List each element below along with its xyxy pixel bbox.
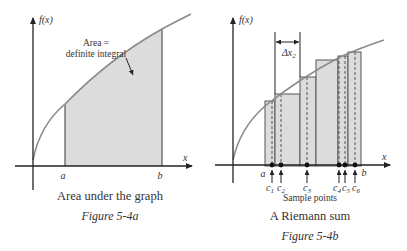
rectangle-4 [316,60,338,166]
tick-label-a: a [261,168,266,179]
tick-label-b: b [158,170,163,181]
annotation-line-1: Area = [83,38,109,48]
figure-label: Figure 5-4a [80,209,138,223]
delta-label: Δx2 [281,47,296,60]
tick-label-b: b [362,167,367,178]
rectangle-2 [275,94,300,166]
sample-points-caption: Sample points [283,193,337,203]
figure-label: Figure 5-4b [280,229,338,243]
annotation-line-2: definite integral [66,49,127,59]
sample-label-c1: c1 [266,182,274,195]
sample-label-c6: c6 [352,182,360,195]
x-axis-label: x [381,151,387,162]
riemann-rectangles [265,52,361,166]
x-axis-label: x [182,152,188,163]
tick-label-a: a [61,170,66,181]
sample-label-c5: c5 [342,182,350,195]
figure-5-4a: f(x) x Area = definite integral a b Area… [15,14,192,223]
caption: A Riemann sum [270,209,351,223]
rectangle-3 [300,77,316,166]
figure-5-4b: Δx2 f(x) x a b c1 c2 c3 c4 c5 c6 [215,14,390,243]
y-axis-label: f(x) [39,14,54,26]
rectangle-1 [265,101,275,166]
y-axis-label: f(x) [239,14,254,26]
caption: Area under the graph [57,189,164,203]
